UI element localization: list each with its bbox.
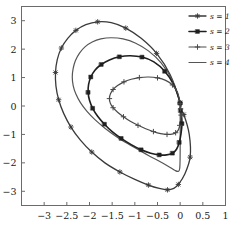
data-point-marker-legend [196,30,200,34]
legend-label-s=2: s = 2 [210,27,230,36]
data-point-marker-s=1 [176,182,181,187]
data-point-marker-s=1 [181,112,186,117]
x-tick-label: −3 [37,210,51,221]
data-point-marker-s=1 [59,46,64,51]
data-point-marker-legend [195,14,200,19]
data-point-marker-s=1 [165,188,170,193]
data-point-marker-s=1 [123,26,128,31]
y-tick-label: −1 [2,129,16,140]
data-point-marker-s=1 [53,70,58,75]
x-tick-label: −1 [128,210,142,221]
data-point-marker-s=2 [103,122,107,126]
y-tick-label: 3 [10,15,16,26]
data-point-marker-s=1 [188,155,193,160]
x-tick-label: −1.5 [101,210,124,221]
data-point-marker-s=2 [118,55,122,59]
chart-figure: −3−2.5−2−1.5−1−0.500.51 −3−2−10123 s = 1… [0,0,237,232]
x-tick-label: −0.5 [146,210,169,221]
data-point-marker-s=2 [91,106,95,110]
x-tick-label: 1 [222,210,228,221]
y-tick-label: 1 [10,72,16,83]
x-tick-label: 0.5 [195,210,210,221]
y-tick-label: 2 [10,44,16,55]
data-point-marker-s=1 [95,20,100,25]
x-tick-label: −2.5 [55,210,78,221]
data-point-marker-s=1 [56,97,61,102]
legend-label-s=3: s = 3 [210,43,230,52]
data-point-marker-s=1 [118,170,123,175]
data-point-marker-s=1 [89,150,94,155]
x-tick-label: −2 [82,210,96,221]
data-point-marker-s=1 [146,183,151,188]
y-tick-label: −2 [2,157,16,168]
data-point-marker-s=1 [74,28,79,33]
data-point-marker-s=2 [171,151,175,155]
y-tick-label: 0 [10,101,16,112]
data-point-marker-s=1 [69,125,74,130]
data-point-marker-s=2 [99,63,103,67]
data-point-marker-s=2 [157,153,161,157]
figure-background [0,0,237,232]
legend-label-s=1: s = 1 [210,12,230,21]
data-point-marker-s=2 [139,148,143,152]
x-tick-label: 0 [177,210,183,221]
data-point-marker-s=2 [86,90,90,94]
y-tick-label: −3 [2,186,16,197]
data-point-marker-s=2 [119,137,123,141]
data-point-marker-s=1 [154,51,159,56]
data-point-marker-s=2 [163,69,167,73]
contour-plot: −3−2.5−2−1.5−1−0.500.51 −3−2−10123 s = 1… [0,0,237,232]
data-point-marker-s=2 [177,140,181,144]
data-point-marker-s=2 [140,55,144,59]
legend-label-s=4: s = 4 [210,58,230,67]
data-point-marker-s=2 [89,75,93,79]
x-tick-labels: −3−2.5−2−1.5−1−0.500.51 [37,210,228,221]
